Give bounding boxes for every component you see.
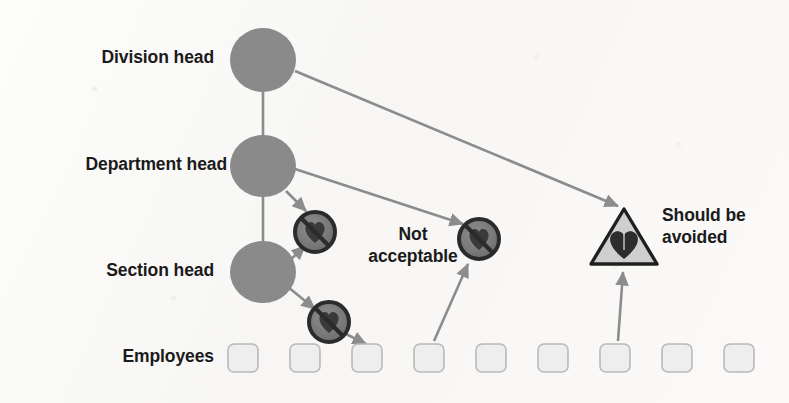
callout-not-acceptable: Not acceptable — [359, 224, 467, 268]
hierarchy-nodes — [230, 28, 296, 303]
callout-not-acceptable-line-2: acceptable — [359, 246, 467, 268]
section-head-node[interactable] — [230, 241, 296, 303]
department-head-node[interactable] — [230, 135, 296, 197]
employee-box[interactable] — [228, 344, 258, 372]
employee-box[interactable] — [414, 344, 444, 372]
prohibited-icon-upper[interactable] — [295, 212, 335, 252]
row-label-division-head: Division head — [102, 48, 214, 67]
division-head-node[interactable] — [230, 28, 296, 92]
arrow-department-to-section-skip — [286, 191, 306, 211]
employee-box[interactable] — [662, 344, 692, 372]
employee-box[interactable] — [724, 344, 754, 372]
callout-should-be-avoided-line-1: Should be — [662, 205, 746, 227]
prohibited-icon-lower[interactable] — [309, 302, 349, 342]
diagram-canvas: Division head Department head Section he… — [0, 0, 789, 403]
arrow-employee4-to-mid-skip — [434, 264, 468, 341]
employee-box[interactable] — [352, 344, 382, 372]
employee-box[interactable] — [290, 344, 320, 372]
employee-boxes — [228, 344, 754, 372]
row-label-department-head: Department head — [86, 155, 227, 174]
employee-box[interactable] — [476, 344, 506, 372]
employee-box[interactable] — [538, 344, 568, 372]
row-label-section-head: Section head — [106, 261, 214, 280]
arrow-employee7-to-triangle — [618, 272, 623, 341]
arrow-lower-skip-to-employee — [344, 333, 366, 344]
employee-box[interactable] — [600, 344, 630, 372]
row-label-employees: Employees — [122, 347, 214, 366]
callout-should-be-avoided-line-2: avoided — [662, 227, 746, 249]
callout-not-acceptable-line-1: Not — [359, 224, 467, 246]
callout-should-be-avoided: Should be avoided — [662, 205, 746, 249]
arrow-section-to-employee-skip — [288, 287, 315, 309]
warning-triangle[interactable] — [591, 209, 657, 264]
